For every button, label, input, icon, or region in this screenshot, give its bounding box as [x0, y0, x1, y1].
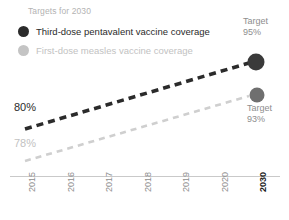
target-callout-value: 93% — [247, 114, 272, 125]
x-axis-tick-label: 2016 — [64, 172, 78, 192]
vaccine-coverage-target-chart: Targets for 2030 Third-dose pentavalent … — [0, 0, 289, 220]
x-axis-tick-label: 2020 — [218, 172, 232, 192]
start-value-pentavalent: 80% — [14, 102, 36, 113]
target-callout-pentavalent: Target 95% — [243, 16, 268, 39]
x-axis-tick-2015: 2015 — [18, 182, 32, 216]
x-axis-tick-label: 2017 — [102, 172, 116, 192]
start-value-measles: 78% — [14, 138, 36, 149]
x-axis-tick-2019: 2019 — [172, 182, 186, 216]
series-line-measles — [25, 96, 249, 161]
target-callout-word: Target — [243, 16, 268, 27]
x-axis-tick-label: 2018 — [141, 172, 155, 192]
x-axis-tick-2018: 2018 — [134, 182, 148, 216]
x-axis-tick-2016: 2016 — [57, 182, 71, 216]
x-axis-tick-label: 2030 — [256, 172, 270, 192]
target-callout-measles: Target 93% — [247, 103, 272, 126]
x-axis-tick-2030: 2030 — [249, 182, 263, 216]
x-axis-tick-2020: 2020 — [211, 182, 225, 216]
endpoint-marker-measles — [250, 88, 265, 103]
x-axis-tick-label: 2019 — [179, 172, 193, 192]
series-line-pentavalent — [25, 63, 249, 129]
x-axis-tick-2017: 2017 — [95, 182, 109, 216]
endpoint-marker-pentavalent — [248, 54, 265, 71]
x-axis-tick-label: 2015 — [25, 172, 39, 192]
target-callout-word: Target — [247, 103, 272, 114]
target-callout-value: 95% — [243, 27, 268, 38]
